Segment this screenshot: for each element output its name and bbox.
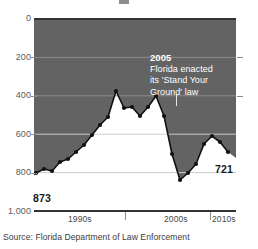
- y-tick-mark-400: [31, 96, 37, 97]
- chart-figure: 0 200 400 600 800 1,000 1990s 2000s 2010…: [0, 0, 258, 249]
- y-tick-label-800: 800: [3, 168, 31, 177]
- x-tick-label-2000s: 2000s: [164, 214, 188, 224]
- annotation-line2: its 'Stand Your: [150, 75, 242, 86]
- y-axis: 0 200 400 600 800 1,000: [0, 0, 31, 249]
- start-value-label: 873: [33, 192, 51, 204]
- y-tick-label-0: 0: [3, 14, 31, 23]
- y-tick-mark-800: [31, 173, 37, 174]
- y-tick-mark-200: [31, 57, 37, 58]
- source-note: Source: Florida Department of Law Enforc…: [3, 232, 190, 242]
- annotation-stand-your-ground: 2005 Florida enacted its 'Stand Your Gro…: [150, 52, 242, 98]
- y-tick-label-1000: 1,000: [3, 207, 31, 216]
- end-value-label: 721: [215, 163, 233, 175]
- area-fill: [34, 19, 236, 180]
- y-tick-label-200: 200: [3, 53, 31, 62]
- annotation-pointer-line: [176, 94, 177, 106]
- annotation-line1: Florida enacted: [150, 64, 242, 75]
- axis-line-bottom: [34, 210, 236, 212]
- y-tick-label-600: 600: [3, 130, 31, 139]
- chart-svg: [34, 19, 236, 211]
- x-tick-label-2010s: 2010s: [212, 214, 236, 224]
- x-tick-label-1990s: 1990s: [68, 214, 92, 224]
- x-tick-mark-2000s: [125, 212, 126, 220]
- y-tick-label-400: 400: [3, 91, 31, 100]
- x-tick-mark-2010s: [210, 212, 211, 220]
- cropped-title-sliver: [119, 0, 129, 4]
- axis-line-top: [34, 18, 236, 20]
- annotation-year: 2005: [150, 52, 242, 63]
- y-tick-mark-600: [31, 134, 37, 135]
- plot-area: [34, 19, 236, 211]
- annotation-line3: Ground' law: [150, 87, 242, 98]
